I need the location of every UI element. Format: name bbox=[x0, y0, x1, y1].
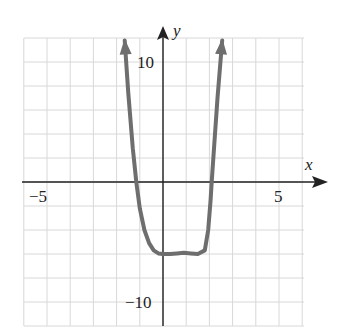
curve-left-arrow-icon bbox=[120, 38, 132, 54]
x-tick-label-5: 5 bbox=[274, 187, 283, 206]
y-tick-label-10: 10 bbox=[137, 53, 154, 72]
y-tick-label-neg10: −10 bbox=[125, 293, 152, 312]
function-graph: x y −5 5 10 −10 bbox=[0, 0, 338, 336]
y-axis-label: y bbox=[171, 21, 181, 40]
x-tick-label-neg5: −5 bbox=[29, 187, 47, 206]
x-axis-label: x bbox=[304, 155, 313, 174]
curve bbox=[120, 38, 227, 254]
axes bbox=[22, 26, 328, 326]
